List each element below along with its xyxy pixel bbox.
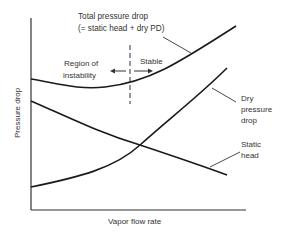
stable-label: Stable: [140, 57, 163, 66]
instability-label-line-2: instability: [63, 71, 96, 80]
stable-arrowhead: [148, 69, 153, 74]
static-label-line-1: Static: [241, 140, 261, 149]
instability-label-line-1: Region of: [64, 59, 99, 68]
dry-label-line-1: Dry: [241, 94, 253, 103]
x-axis-label: Vapor flow rate: [108, 217, 162, 226]
dry-label-line-3: drop: [241, 116, 258, 125]
instability-arrowhead: [110, 69, 115, 74]
static-head-curve: [31, 101, 227, 175]
dry-pressure-drop-curve: [31, 68, 227, 187]
static-leader-line: [210, 152, 240, 167]
y-axis-label: Pressure drop: [13, 87, 22, 138]
dry-label-line-2: pressure: [241, 105, 273, 114]
dry-leader-line: [212, 88, 236, 102]
total-label-line-1: Total pressure drop: [78, 12, 149, 21]
total-leader-line: [163, 37, 191, 53]
pressure-drop-diagram: Total pressure drop (= static head + dry…: [0, 0, 284, 233]
static-label-line-2: head: [241, 151, 259, 160]
total-pressure-drop-curve: [31, 26, 236, 88]
total-label-line-2: (= static head + dry PD): [78, 24, 165, 33]
